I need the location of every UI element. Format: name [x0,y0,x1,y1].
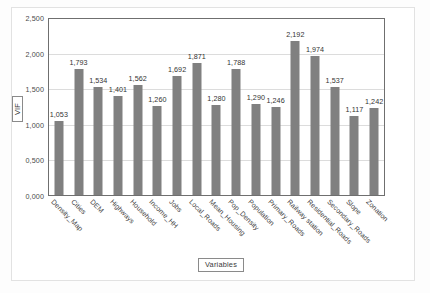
y-axis-tick-label: 2,000 [4,49,44,58]
bar [113,96,122,195]
bar-value-label: 1,793 [69,58,87,67]
y-axis-tick-label: 0,000 [4,192,44,201]
y-axis-tick-label: 1,500 [4,85,44,94]
x-axis-title: Variables [198,258,244,272]
y-axis-tick-label: 0,500 [4,156,44,165]
x-axis-category-label: DEM [89,198,105,214]
y-axis-tick-label: 2,500 [4,14,44,23]
vif-bar-chart-figure: 2,5002,0001,5001,0000,5000,000 VIF 1,053… [0,0,430,293]
bar-value-label: 1,401 [109,85,127,94]
bar-value-label: 1,246 [266,96,284,105]
bar-value-label: 1,242 [365,97,383,106]
bar [94,87,103,195]
bar [311,56,320,195]
y-axis-tick-label: 1,000 [4,120,44,129]
bar-slot: 1,692 [167,19,187,195]
x-axis-category-label: Jobs [168,198,184,214]
x-axis-category-label: Mean_Housing [208,198,247,237]
x-axis-category-label: Slope [345,198,363,216]
bar-value-label: 2,192 [286,30,304,39]
bar-value-label: 1,290 [247,93,265,102]
bar-slot: 1,537 [325,19,345,195]
bar-slot: 1,290 [246,19,266,195]
bar [133,85,142,195]
bar-slot: 1,871 [187,19,207,195]
bar-slot: 1,562 [128,19,148,195]
bar-slot: 1,788 [226,19,246,195]
bar [153,106,162,195]
bar-value-label: 1,053 [50,110,68,119]
bar [330,87,339,195]
bar-value-label: 1,788 [227,58,245,67]
x-axis-category-label: Cities [70,198,88,216]
bar-value-label: 1,534 [89,76,107,85]
bar-slot: 1,246 [266,19,286,195]
bar-slot: 1,053 [49,19,69,195]
bar-slot: 1,117 [345,19,365,195]
bar [291,41,300,195]
y-axis-title: VIF [12,96,23,122]
bar-value-label: 1,562 [129,74,147,83]
bar [173,76,182,195]
y-axis-title-text: VIF [14,103,21,115]
bar-value-label: 1,260 [148,95,166,104]
bar-value-label: 1,974 [306,45,324,54]
bar-series: 1,0531,7931,5341,4011,5621,2601,6921,871… [49,19,384,195]
bar [232,69,241,195]
bar [74,69,83,195]
bar [370,108,379,195]
bar-slot: 1,401 [108,19,128,195]
bar [212,105,221,195]
bar [192,63,201,195]
bar-slot: 1,793 [69,19,89,195]
bar-value-label: 1,537 [326,76,344,85]
bar-slot: 2,192 [285,19,305,195]
bar-value-label: 1,871 [188,52,206,61]
bar-slot: 1,534 [88,19,108,195]
bar-slot: 1,242 [364,19,384,195]
bar-slot: 1,974 [305,19,325,195]
bar-value-label: 1,280 [207,94,225,103]
bar-slot: 1,260 [148,19,168,195]
bar [350,116,359,195]
bar-slot: 1,280 [207,19,227,195]
bar-value-label: 1,692 [168,65,186,74]
bar-value-label: 1,117 [346,105,364,114]
bar [271,107,280,195]
bar [251,104,260,195]
bar [54,121,63,195]
